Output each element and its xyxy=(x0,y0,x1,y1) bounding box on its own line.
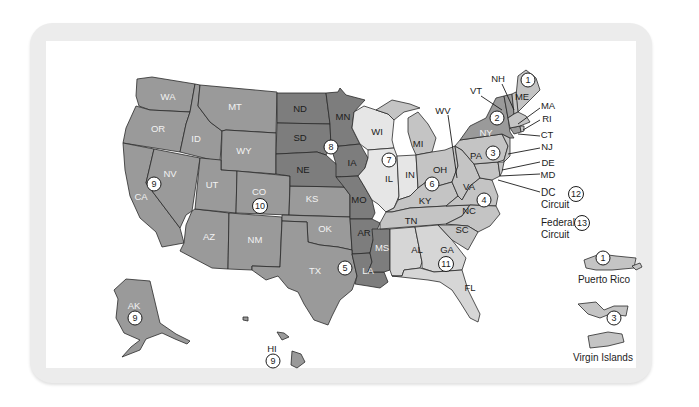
label-mt: MT xyxy=(228,101,242,112)
badge-circuit-2[interactable]: 2 xyxy=(490,111,504,125)
state-hi-maui[interactable] xyxy=(277,332,289,340)
label-nd: ND xyxy=(293,103,307,114)
label-ks: KS xyxy=(306,193,319,204)
badge-circuit-10[interactable]: 10 xyxy=(253,199,268,214)
circuit-map: WA OR CA NV ID MT AZ WY UT CO NM KS OK N… xyxy=(0,0,699,407)
label-de: DE xyxy=(541,157,554,168)
label-ne: NE xyxy=(296,164,309,175)
svg-text:3: 3 xyxy=(490,148,495,158)
label-in: IN xyxy=(405,169,415,180)
label-al: AL xyxy=(411,244,423,255)
svg-text:1: 1 xyxy=(525,75,530,85)
svg-text:9: 9 xyxy=(151,179,156,189)
svg-text:7: 7 xyxy=(386,155,391,165)
badge-circuit-1[interactable]: 1 xyxy=(521,73,535,87)
label-virgin-islands: Virgin Islands xyxy=(573,352,633,363)
svg-text:12: 12 xyxy=(571,189,581,199)
label-ms: MS xyxy=(375,242,389,253)
svg-text:4: 4 xyxy=(481,195,486,205)
label-puerto-rico: Puerto Rico xyxy=(578,274,631,285)
svg-text:3: 3 xyxy=(611,313,616,323)
label-nh: NH xyxy=(491,73,505,84)
badge-circuit-9-ak[interactable]: 9 xyxy=(128,311,142,325)
label-nc: NC xyxy=(462,205,476,216)
label-nv: NV xyxy=(163,168,177,179)
label-la: LA xyxy=(362,265,374,276)
badge-circuit-11[interactable]: 11 xyxy=(439,257,454,272)
label-sc: SC xyxy=(455,224,468,235)
legend-dc-line2: Circuit xyxy=(541,199,570,210)
label-az: AZ xyxy=(203,231,215,242)
badge-circuit-13[interactable]: 13 xyxy=(575,216,590,231)
legend-dc-line1: DC xyxy=(541,187,555,198)
label-ut: UT xyxy=(206,179,219,190)
label-me: ME xyxy=(515,91,529,102)
state-hi-oahu[interactable] xyxy=(243,317,248,321)
label-vt: VT xyxy=(470,85,482,96)
label-nm: NM xyxy=(248,234,263,245)
badge-circuit-1-pr[interactable]: 1 xyxy=(596,251,610,265)
callout-md xyxy=(500,174,540,176)
label-ma: MA xyxy=(541,100,556,111)
label-ok: OK xyxy=(318,223,332,234)
badge-circuit-4[interactable]: 4 xyxy=(477,193,491,207)
label-oh: OH xyxy=(433,164,447,175)
label-nj: NJ xyxy=(541,141,553,152)
legend-fed-line2: Circuit xyxy=(541,229,570,240)
label-mn: MN xyxy=(336,111,351,122)
state-ks[interactable] xyxy=(289,186,350,217)
badge-circuit-3[interactable]: 3 xyxy=(486,146,500,160)
svg-text:8: 8 xyxy=(328,142,333,152)
label-wi: WI xyxy=(371,126,383,137)
label-ny: NY xyxy=(479,127,493,138)
legend: DC Circuit 12 Federal Circuit 13 xyxy=(541,187,590,241)
label-pa: PA xyxy=(470,150,483,161)
label-ct: CT xyxy=(541,129,554,140)
label-tn: TN xyxy=(405,215,418,226)
svg-text:2: 2 xyxy=(494,113,499,123)
state-fl[interactable] xyxy=(392,268,480,322)
label-co: CO xyxy=(252,186,266,197)
state-ri[interactable] xyxy=(520,126,524,132)
label-fl: FL xyxy=(464,282,475,293)
label-mo: MO xyxy=(351,194,366,205)
badge-circuit-3-vi[interactable]: 3 xyxy=(607,311,621,325)
label-or: OR xyxy=(151,123,165,134)
state-hi-big[interactable] xyxy=(291,351,305,368)
label-ca: CA xyxy=(134,191,148,202)
svg-text:9: 9 xyxy=(132,313,137,323)
label-wy: WY xyxy=(236,145,252,156)
svg-text:13: 13 xyxy=(577,218,587,228)
callout-de xyxy=(502,162,540,170)
badge-circuit-6[interactable]: 6 xyxy=(425,177,439,191)
label-ak: AK xyxy=(128,300,141,311)
callout-nj xyxy=(508,148,540,154)
label-ia: IA xyxy=(348,157,358,168)
label-tx: TX xyxy=(309,265,322,276)
state-ak[interactable] xyxy=(114,279,190,357)
label-ri: RI xyxy=(542,113,552,124)
svg-text:1: 1 xyxy=(600,253,605,263)
badge-circuit-9-hi[interactable]: 9 xyxy=(266,354,280,368)
territory-vi-south[interactable] xyxy=(588,332,624,348)
svg-text:10: 10 xyxy=(255,201,265,211)
callout-dc xyxy=(498,180,540,192)
state-mi[interactable] xyxy=(408,112,436,155)
badge-circuit-9-west[interactable]: 9 xyxy=(147,177,161,191)
label-il: IL xyxy=(385,173,393,184)
label-ga: GA xyxy=(440,244,454,255)
label-va: VA xyxy=(463,181,476,192)
label-ky: KY xyxy=(419,195,432,206)
label-md: MD xyxy=(541,169,556,180)
label-sd: SD xyxy=(293,132,306,143)
label-id: ID xyxy=(191,133,201,144)
badge-circuit-5[interactable]: 5 xyxy=(338,261,352,275)
region-virgin-islands xyxy=(578,302,628,348)
badge-circuit-8[interactable]: 8 xyxy=(324,140,338,154)
badge-circuit-12[interactable]: 12 xyxy=(569,187,584,202)
svg-text:6: 6 xyxy=(429,179,434,189)
callout-ct xyxy=(518,134,540,136)
svg-text:11: 11 xyxy=(441,259,450,269)
badge-circuit-7[interactable]: 7 xyxy=(382,153,396,167)
label-hi: HI xyxy=(267,343,277,354)
